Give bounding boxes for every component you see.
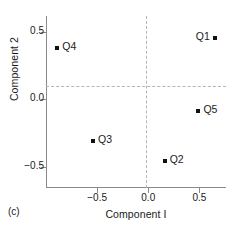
x-tick-label: −0.5 (77, 192, 117, 203)
plot-area: 0.50.0−0.5 −0.50.00.5 Q1Q2Q3Q4Q5 (46, 16, 226, 188)
x-tick-label: 0.5 (179, 192, 219, 203)
y-tick-label: 0.5 (30, 25, 44, 36)
scatter-plot-figure: Component 2 Component I (c) 0.50.0−0.5 −… (0, 0, 236, 231)
figure-caption: (c) (8, 206, 20, 217)
y-tick-label: −0.5 (24, 160, 44, 171)
data-point-label: Q4 (62, 40, 76, 52)
data-point-marker (213, 36, 217, 40)
zero-line-horizontal (46, 86, 226, 87)
x-tick-label: 0.0 (128, 192, 168, 203)
data-point-label: Q3 (98, 133, 112, 145)
data-point-label: Q5 (203, 103, 217, 115)
y-axis-title: Component 2 (8, 9, 20, 129)
y-axis-line (46, 16, 47, 188)
data-point-label: Q2 (170, 153, 184, 165)
x-axis-title: Component I (46, 208, 226, 220)
data-point-label: Q1 (196, 30, 210, 42)
data-point-marker (196, 109, 200, 113)
data-point-marker (91, 139, 95, 143)
data-point-marker (55, 46, 59, 50)
data-point-marker (163, 159, 167, 163)
y-tick-label: 0.0 (30, 92, 44, 103)
zero-line-vertical (146, 16, 147, 188)
